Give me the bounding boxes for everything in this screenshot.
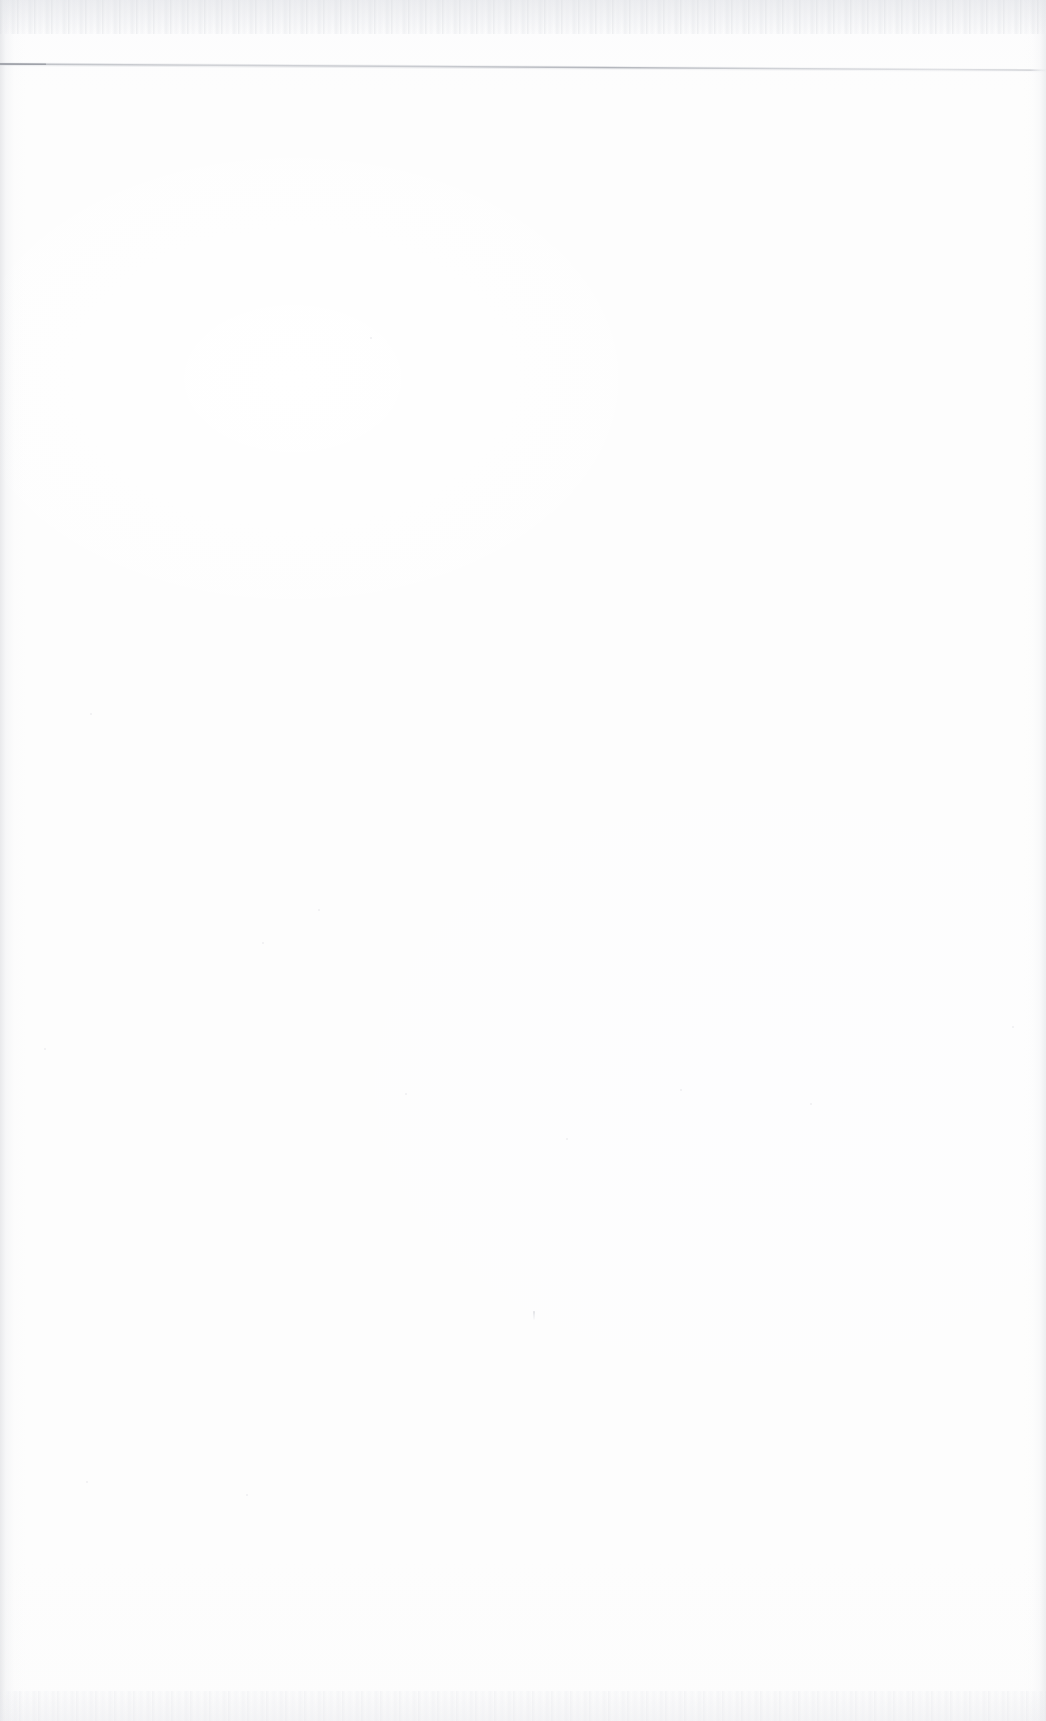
top-scan-noise-band [0, 0, 1046, 34]
scanned-page [0, 0, 1046, 1721]
horizontal-rule [0, 48, 1046, 84]
bottom-scan-noise-band [0, 1691, 1046, 1721]
page-body [0, 84, 1046, 1691]
